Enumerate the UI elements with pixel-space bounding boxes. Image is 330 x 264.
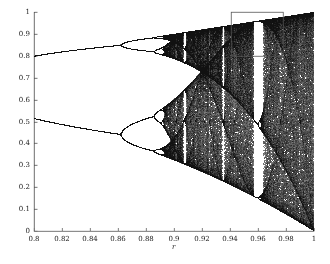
y-tick-label: 1 <box>0 8 30 16</box>
y-tick-label: 0.2 <box>0 183 30 191</box>
y-tick-label: 0.1 <box>0 205 30 213</box>
bifurcation-plot-canvas <box>0 0 330 264</box>
y-tick-label: 0.6 <box>0 96 30 104</box>
y-tick-label: 0.4 <box>0 139 30 147</box>
y-tick-label: 0.9 <box>0 30 30 38</box>
y-tick-label: 0.8 <box>0 52 30 60</box>
y-tick-label: 0 <box>0 227 30 235</box>
y-tick-label: 0.3 <box>0 161 30 169</box>
y-tick-label: 0.5 <box>0 118 30 126</box>
x-tick-label: 1 <box>294 235 330 243</box>
y-tick-label: 0.7 <box>0 74 30 82</box>
x-axis-title: r <box>172 243 175 251</box>
bifurcation-figure: 0.80.820.840.860.880.90.920.940.960.981 … <box>0 0 330 264</box>
